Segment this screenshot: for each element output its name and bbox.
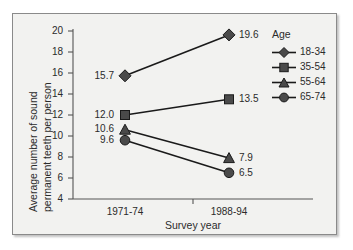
legend-marker-diamond-icon — [271, 45, 297, 58]
data-label-55-64-1988-94: 7.9 — [239, 153, 253, 163]
plot-area: 20 18 16 14 12 10 8 6 4 1971-74 1988-94 … — [13, 14, 338, 236]
legend-label-35-54: 35-54 — [300, 61, 326, 72]
legend-label-55-64: 55-64 — [300, 76, 326, 87]
legend-label-65-74: 65-74 — [300, 91, 326, 102]
x-tick-label-1988-94: 1988-94 — [199, 207, 259, 217]
legend: Age 18-34 — [271, 28, 335, 104]
legend-title: Age — [272, 28, 335, 40]
x-axis-title: Survey year — [113, 220, 273, 231]
data-label-35-54-1971-74: 12.0 — [86, 110, 114, 120]
data-label-65-74-1988-94: 6.5 — [239, 168, 253, 178]
x-tick-label-1971-74: 1971-74 — [95, 207, 155, 217]
data-label-55-64-1971-74: 10.6 — [86, 124, 114, 134]
legend-item-55-64: 55-64 — [271, 74, 335, 89]
y-axis-title-line-1: Average number of sound — [27, 91, 39, 212]
legend-label-18-34: 18-34 — [300, 46, 326, 57]
series-line-35-54 — [125, 99, 229, 115]
point-marker-65-74-1988-94 — [224, 168, 234, 178]
point-marker-35-54-1971-74 — [121, 111, 130, 120]
chart-frame: 20 18 16 14 12 10 8 6 4 1971-74 1988-94 … — [12, 13, 337, 235]
series-line-18-34 — [125, 35, 229, 76]
chart-figure: 20 18 16 14 12 10 8 6 4 1971-74 1988-94 … — [0, 0, 353, 250]
series-line-55-64 — [125, 130, 229, 158]
y-axis-title-line-2: permanent teeth per person — [41, 82, 53, 212]
legend-item-65-74: 65-74 — [271, 89, 335, 104]
point-marker-18-34-1988-94 — [223, 29, 235, 41]
data-label-65-74-1971-74: 9.6 — [86, 135, 114, 145]
point-marker-55-64-1971-74 — [120, 124, 131, 134]
data-label-35-54-1988-94: 13.5 — [239, 94, 258, 104]
series-line-65-74 — [125, 140, 229, 173]
legend-marker-triangle-icon — [271, 75, 297, 88]
legend-item-35-54: 35-54 — [271, 59, 335, 74]
legend-marker-circle-icon — [271, 90, 297, 103]
point-marker-18-34-1971-74 — [119, 70, 131, 82]
legend-item-18-34: 18-34 — [271, 44, 335, 59]
y-axis-title: Average number of sound permanent teeth … — [27, 32, 61, 212]
data-label-18-34-1971-74: 15.7 — [86, 71, 114, 81]
data-label-18-34-1988-94: 19.6 — [239, 30, 258, 40]
legend-marker-square-icon — [271, 60, 297, 73]
point-marker-65-74-1971-74 — [120, 135, 130, 145]
point-marker-35-54-1988-94 — [225, 95, 234, 104]
